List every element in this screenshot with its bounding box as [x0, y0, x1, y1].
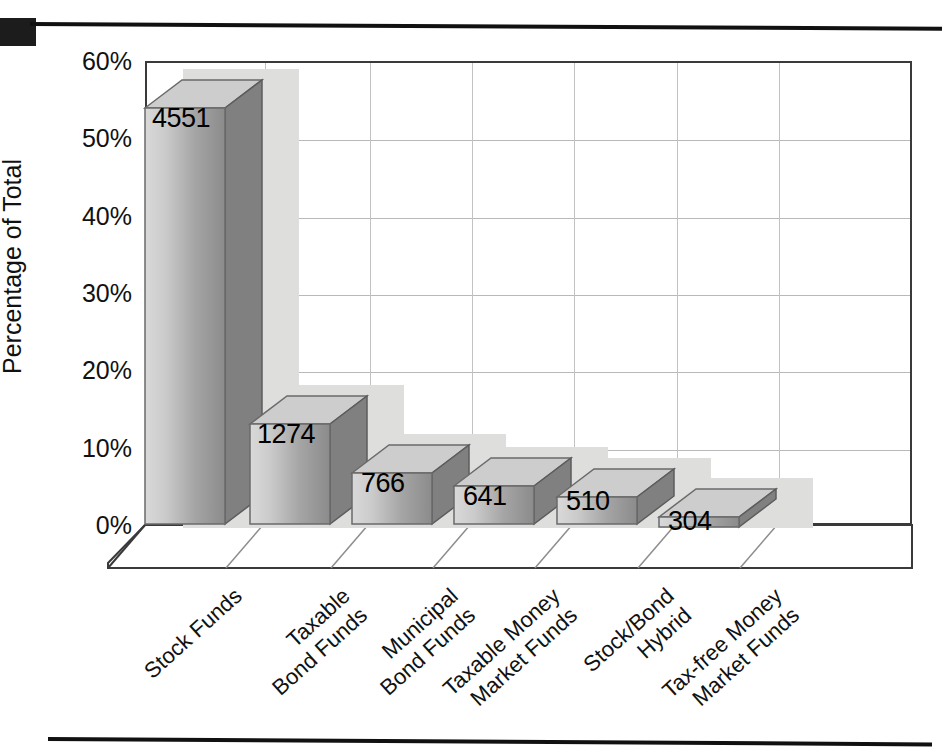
x-axis-labels: Stock Funds Taxable Bond Funds Municipal… — [0, 0, 951, 754]
x-label-line1: Stock Funds — [139, 583, 247, 683]
chart-page: Percentage of Total 60% 50% 40% 30% 20% … — [0, 0, 951, 754]
